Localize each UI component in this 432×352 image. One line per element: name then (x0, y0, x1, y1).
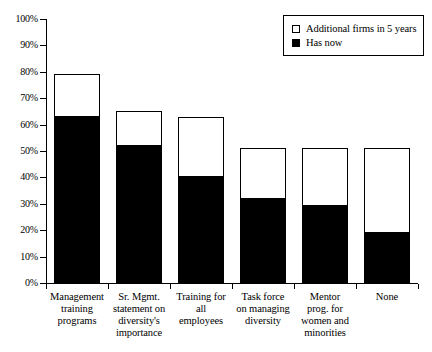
bar-segment-has-now (117, 145, 161, 282)
category-label-line: programs (42, 315, 112, 327)
category-label-line: None (352, 291, 422, 303)
bar (178, 117, 224, 283)
y-axis-tick-label: 30% (0, 199, 38, 209)
legend-item-has-now: Has now (292, 36, 417, 49)
stacked-bar-chart: 100%90%80%70%60%50%40%30%20%10%0% Manage… (0, 0, 432, 352)
y-axis-tick-label: 80% (0, 67, 38, 77)
y-axis-tick (40, 204, 46, 205)
y-axis-tick-label: 10% (0, 252, 38, 262)
y-axis-tick-label: 100% (0, 14, 38, 24)
y-axis-tick-label: 50% (0, 146, 38, 156)
y-axis-tick-label: 60% (0, 120, 38, 130)
category-label-line: women and (290, 315, 360, 327)
y-axis-tick-label: 90% (0, 40, 38, 50)
bar-segment-has-now (303, 205, 347, 282)
y-axis-tick (40, 98, 46, 99)
category-label-line: prog. for (290, 303, 360, 315)
y-axis-tick-label: 20% (0, 225, 38, 235)
category-label-line: Management (42, 291, 112, 303)
category-label-line: all (166, 303, 236, 315)
category-label-line: Sr. Mgmt. (104, 291, 174, 303)
x-axis-tick (46, 284, 47, 289)
y-axis-tick (40, 72, 46, 73)
category-label-line: diversity's (104, 315, 174, 327)
category-label-line: statement on (104, 303, 174, 315)
bar (240, 148, 286, 283)
y-axis-tick (40, 230, 46, 231)
x-axis-tick (418, 284, 419, 289)
category-label-line: diversity (228, 315, 298, 327)
y-axis-tick (40, 45, 46, 46)
x-axis-category-label: Sr. Mgmt.statement ondiversity'simportan… (104, 291, 174, 339)
x-axis-tick (170, 284, 171, 289)
x-axis-tick (294, 284, 295, 289)
x-axis-tick (232, 284, 233, 289)
legend-swatch-filled-icon (292, 39, 300, 47)
legend-label-has-now: Has now (306, 37, 342, 48)
bar (302, 148, 348, 283)
x-axis-category-label: Task forceon managingdiversity (228, 291, 298, 327)
category-label-line: Training for (166, 291, 236, 303)
category-label-line: on managing (228, 303, 298, 315)
chart-legend: Additional firms in 5 years Has now (283, 15, 424, 56)
category-label-line: minorities (290, 327, 360, 339)
legend-label-additional: Additional firms in 5 years (306, 23, 416, 34)
bar-segment-has-now (241, 198, 285, 282)
x-axis-tick (108, 284, 109, 289)
y-axis-tick-label: 70% (0, 93, 38, 103)
bar (364, 148, 410, 283)
category-label-line: training (42, 303, 112, 315)
y-axis-tick (40, 257, 46, 258)
x-axis-category-label: Training forallemployees (166, 291, 236, 327)
bar-segment-has-now (365, 232, 409, 282)
category-label-line: importance (104, 327, 174, 339)
y-axis-tick-label: 0% (0, 278, 38, 288)
y-axis-tick (40, 177, 46, 178)
y-axis-tick (40, 125, 46, 126)
category-label-line: Mentor (290, 291, 360, 303)
x-axis-category-label: Mentorprog. forwomen andminorities (290, 291, 360, 339)
y-axis-tick-label: 40% (0, 172, 38, 182)
x-axis-tick (356, 284, 357, 289)
bar-segment-has-now (55, 116, 99, 282)
bar-segment-has-now (179, 176, 223, 282)
y-axis-line (46, 19, 47, 284)
x-axis-category-label: None (352, 291, 422, 303)
bar (54, 74, 100, 283)
y-axis-tick (40, 19, 46, 20)
legend-item-additional: Additional firms in 5 years (292, 22, 417, 35)
category-label-line: Task force (228, 291, 298, 303)
category-label-line: employees (166, 315, 236, 327)
y-axis-tick (40, 151, 46, 152)
bar (116, 111, 162, 283)
legend-swatch-empty-icon (292, 25, 300, 33)
x-axis-category-label: Managementtrainingprograms (42, 291, 112, 327)
